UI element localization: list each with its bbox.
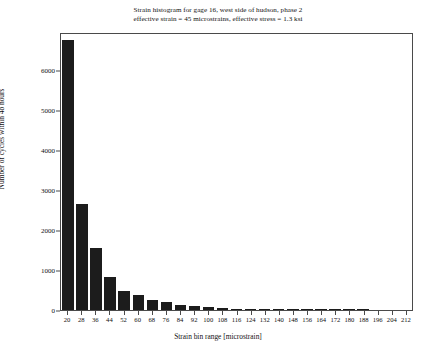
x-tick-mark — [251, 311, 252, 315]
bar-slot — [159, 34, 173, 310]
bar-slot — [117, 34, 131, 310]
y-tick-label: 1000 — [41, 267, 55, 275]
bar-slot — [286, 34, 300, 310]
bar — [133, 295, 145, 310]
chart-title-line-2: effective strain = 45 microstrains, effe… — [0, 15, 436, 24]
bar-slot — [75, 34, 89, 310]
bar — [104, 277, 116, 310]
bar — [259, 309, 271, 310]
bar — [175, 305, 187, 310]
x-tick-label: 92 — [191, 316, 198, 323]
bar-slot — [145, 34, 159, 310]
x-tick-mark — [95, 311, 96, 315]
bar — [147, 300, 159, 310]
bar — [315, 309, 327, 310]
x-tick-mark — [364, 311, 365, 315]
x-tick-label: 52 — [120, 316, 127, 323]
bar — [329, 309, 341, 310]
bar-slot — [300, 34, 314, 310]
x-tick-mark — [406, 311, 407, 315]
bar-slot — [370, 34, 384, 310]
bar — [161, 302, 173, 310]
x-tick-mark — [152, 311, 153, 315]
x-tick-label: 28 — [78, 316, 85, 323]
x-tick-mark — [81, 311, 82, 315]
x-tick-label: 68 — [148, 316, 155, 323]
bar — [343, 309, 355, 310]
bar-slot — [384, 34, 398, 310]
x-tick-mark — [265, 311, 266, 315]
x-tick-mark — [307, 311, 308, 315]
x-tick-mark — [138, 311, 139, 315]
bar — [301, 309, 313, 310]
x-tick-label: 156 — [302, 316, 312, 323]
chart-title-line-1: Strain histogram for gage 16, west side … — [0, 6, 436, 15]
bar — [62, 40, 74, 310]
bar-slot — [258, 34, 272, 310]
x-tick-label: 100 — [203, 316, 213, 323]
chart-figure: Strain histogram for gage 16, west side … — [0, 0, 436, 360]
y-axis-label: Number of cycles within 48 hours — [0, 0, 11, 278]
bar-series — [61, 34, 412, 310]
bar-slot — [103, 34, 117, 310]
x-tick-label: 44 — [106, 316, 113, 323]
x-tick-mark — [293, 311, 294, 315]
x-tick-label: 140 — [274, 316, 284, 323]
x-tick-mark — [67, 311, 68, 315]
bar-slot — [201, 34, 215, 310]
x-axis-ticks: 2028364452606876849210010811612413214014… — [60, 311, 413, 331]
y-tick-label: 5000 — [41, 107, 55, 115]
bar-slot — [187, 34, 201, 310]
y-tick-label: 3000 — [41, 187, 55, 195]
bar — [217, 308, 229, 310]
bar — [245, 309, 257, 310]
bar — [90, 248, 102, 310]
x-tick-label: 132 — [260, 316, 270, 323]
bar-slot — [314, 34, 328, 310]
bar — [231, 309, 243, 311]
x-tick-label: 60 — [134, 316, 141, 323]
bar-slot — [89, 34, 103, 310]
y-tick-label: 4000 — [41, 147, 55, 155]
x-tick-mark — [321, 311, 322, 315]
bar-slot — [131, 34, 145, 310]
bar-slot — [342, 34, 356, 310]
x-tick-mark — [180, 311, 181, 315]
bar-slot — [272, 34, 286, 310]
x-tick-mark — [109, 311, 110, 315]
x-tick-mark — [279, 311, 280, 315]
x-tick-label: 196 — [373, 316, 383, 323]
x-tick-label: 20 — [64, 316, 71, 323]
bar-slot — [356, 34, 370, 310]
bar — [203, 307, 215, 310]
bar — [273, 309, 285, 310]
x-axis-label: Strain bin range [microstrain] — [0, 332, 436, 341]
x-tick-label: 124 — [246, 316, 256, 323]
x-tick-mark — [124, 311, 125, 315]
x-tick-mark — [166, 311, 167, 315]
y-tick-label: 6000 — [41, 67, 55, 75]
x-tick-label: 84 — [177, 316, 184, 323]
x-tick-mark — [378, 311, 379, 315]
x-tick-label: 188 — [359, 316, 369, 323]
plot-area — [60, 33, 413, 311]
y-tick-label: 0 — [52, 307, 56, 315]
x-tick-label: 108 — [217, 316, 227, 323]
x-tick-label: 116 — [232, 316, 242, 323]
x-tick-label: 164 — [316, 316, 326, 323]
bar — [189, 306, 201, 310]
x-tick-mark — [194, 311, 195, 315]
bar-slot — [216, 34, 230, 310]
bar-slot — [230, 34, 244, 310]
bar-slot — [244, 34, 258, 310]
x-tick-label: 204 — [387, 316, 397, 323]
x-tick-label: 172 — [330, 316, 340, 323]
bar — [118, 291, 130, 310]
x-tick-mark — [349, 311, 350, 315]
x-tick-mark — [335, 311, 336, 315]
x-tick-label: 180 — [345, 316, 355, 323]
bar-slot — [328, 34, 342, 310]
bar — [357, 309, 369, 310]
bar-slot — [173, 34, 187, 310]
x-tick-mark — [222, 311, 223, 315]
